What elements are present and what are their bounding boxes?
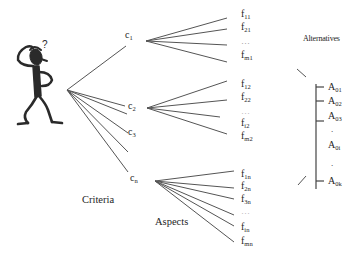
alternatives-label: Alternatives [303,34,340,44]
alternative-a02: A02 [328,96,342,109]
connector-top [297,69,306,77]
aspect-f22: f22 [241,92,251,105]
aspect-ellipsis-c1: … [241,36,250,46]
criterion-c2: c2 [128,101,136,114]
alternative-a01: A01 [328,82,342,95]
aspect-ellipsis-cn: … [241,206,250,216]
aspect-fm2: fm2 [241,131,253,144]
alternative-dots-1: . [331,124,333,134]
alternative-a0k: A0k [328,176,342,189]
alternative-a03: A03 [328,111,342,124]
alternative-a0i: A0i [328,140,340,153]
criterion-cn: cn [130,173,138,186]
criteria-label: Criteria [82,195,114,205]
alternatives-bracket [316,84,324,189]
aspect-f21: f21 [241,22,251,35]
aspect-fmn: fmn [241,236,253,249]
aspect-branch-lines-c1 [146,18,227,62]
aspect-fin: fin [241,222,249,235]
thinking-person-icon [18,46,62,124]
aspect-fm1: fm1 [241,50,253,63]
question-mark-icon: ? [42,39,48,50]
criterion-c1: c1 [125,30,133,43]
alternative-dots-2: . [331,158,333,168]
aspect-branch-lines-c2 [147,81,227,134]
connector-bottom [298,176,306,185]
criteria-branch-lines [67,46,128,172]
aspect-branch-lines-cn [155,171,234,242]
criterion-c3: c3 [128,127,136,140]
aspects-label: Aspects [155,217,188,227]
aspect-ellipsis-c2: … [241,106,250,116]
